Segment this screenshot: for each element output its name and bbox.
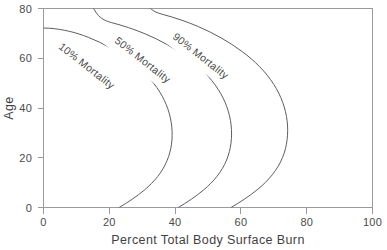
curve-labels: 10% Mortality 50% Mortality 90% Mortalit… xyxy=(57,30,232,91)
curve-label-10-percent: 10% Mortality xyxy=(57,40,118,91)
plot-frame xyxy=(44,9,373,208)
burn-mortality-chart: 0 20 40 60 80 100 0 20 40 60 80 Percent … xyxy=(0,0,387,250)
y-tick-label-20: 20 xyxy=(19,152,32,164)
y-axis-ticks xyxy=(38,9,44,208)
x-tick-label-0: 0 xyxy=(40,216,46,228)
chart-container: 0 20 40 60 80 100 0 20 40 60 80 Percent … xyxy=(0,0,387,250)
x-tick-label-80: 80 xyxy=(300,216,313,228)
x-axis-ticks xyxy=(44,208,373,214)
y-tick-label-80: 80 xyxy=(19,3,32,15)
x-tick-label-40: 40 xyxy=(169,216,182,228)
x-tick-label-60: 60 xyxy=(235,216,248,228)
y-tick-label-0: 0 xyxy=(26,202,32,214)
x-axis-title: Percent Total Body Surface Burn xyxy=(111,233,305,247)
x-tick-label-100: 100 xyxy=(363,216,382,228)
curve-label-90-percent: 90% Mortality xyxy=(171,30,232,81)
y-axis-title: Age xyxy=(2,96,16,119)
x-tick-labels: 0 20 40 60 80 100 xyxy=(40,216,382,228)
x-tick-label-20: 20 xyxy=(103,216,116,228)
y-tick-labels: 0 20 40 60 80 xyxy=(19,3,32,214)
y-tick-label-40: 40 xyxy=(19,102,32,114)
y-tick-label-60: 60 xyxy=(19,52,32,64)
